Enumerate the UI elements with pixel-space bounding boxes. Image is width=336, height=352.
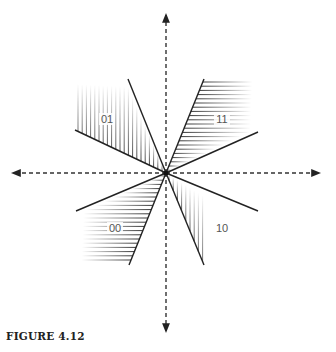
region-label-01: 01 (101, 113, 113, 125)
figure-caption: FIGURE 4.12 (6, 330, 85, 342)
region-label-11: 11 (216, 113, 227, 125)
constellation-diagram: 01110010 (0, 0, 336, 352)
region-label-00: 00 (109, 222, 121, 234)
region-label-10: 10 (216, 222, 228, 234)
region-edge-01 (128, 79, 166, 173)
origin-point (164, 171, 169, 176)
